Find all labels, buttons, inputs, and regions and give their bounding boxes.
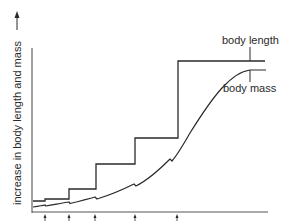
moult-and-time-labels: moult	[0, 0, 286, 221]
